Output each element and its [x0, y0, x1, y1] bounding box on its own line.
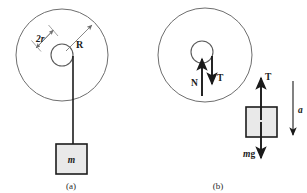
- normal-force-label: N: [191, 78, 198, 88]
- acceleration-label: a: [298, 105, 303, 115]
- block-mass-label: m: [68, 155, 75, 165]
- figure-canvas: 2r R m (a) N T: [0, 0, 307, 193]
- weight-label: mg: [243, 149, 255, 159]
- panel-b: N T T mg a (b): [158, 8, 303, 191]
- axle-diameter-label: 2r: [35, 34, 45, 44]
- panel-b-caption: (b): [213, 181, 224, 191]
- weight-label-g: g: [250, 149, 255, 159]
- panel-a-caption: (a): [66, 181, 76, 191]
- wheel-outline-a: [16, 9, 108, 101]
- panel-a: 2r R m (a): [16, 9, 108, 191]
- tension-on-block-label: T: [265, 72, 272, 82]
- wheel-outline-b: [158, 8, 252, 102]
- axle-diameter-tick-right: [49, 25, 59, 36]
- wheel-radius-label: R: [76, 39, 84, 50]
- tension-on-wheel-label: T: [217, 73, 224, 83]
- weight-label-m: m: [243, 149, 250, 159]
- physics-figure: 2r R m (a) N T: [0, 0, 307, 193]
